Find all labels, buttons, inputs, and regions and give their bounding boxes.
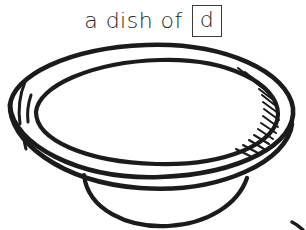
dish-illustration	[0, 32, 306, 230]
caption-text: a dish of	[84, 10, 183, 32]
letter-box-glyph: d	[200, 9, 214, 31]
corner-ink-mark	[292, 222, 303, 230]
worksheet-page: a dish of d	[0, 0, 306, 230]
outer-rim-oval	[10, 45, 293, 177]
inner-rim-oval	[36, 60, 278, 164]
